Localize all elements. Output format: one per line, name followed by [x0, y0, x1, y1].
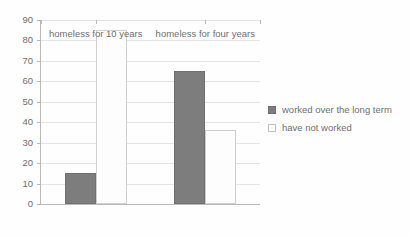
y-tick-mark [37, 102, 41, 103]
bar [205, 130, 236, 204]
legend-swatch-icon [268, 106, 276, 114]
y-tick-label: 10 [0, 179, 33, 189]
x-category-label: homeless for 10 years [49, 29, 142, 39]
y-tick-mark [37, 81, 41, 82]
y-tick-label: 80 [0, 36, 33, 46]
y-tick-label: 20 [0, 158, 33, 168]
y-tick-mark [37, 163, 41, 164]
y-tick-label: 90 [0, 15, 33, 25]
y-tick-label: 0 [0, 199, 33, 209]
legend-item: worked over the long term [268, 104, 406, 115]
gridline [41, 61, 260, 62]
plot-area: homeless for 10 yearshomeless for four y… [40, 20, 260, 205]
y-tick-label: 60 [0, 77, 33, 87]
y-tick-mark [37, 184, 41, 185]
y-tick-label: 50 [0, 97, 33, 107]
legend-swatch-icon [268, 124, 276, 132]
bar-chart: homeless for 10 yearshomeless for four y… [0, 0, 410, 236]
gridline [41, 40, 260, 41]
x-tick-mark [205, 20, 206, 24]
x-tick-mark [96, 20, 97, 24]
x-tick-mark [260, 20, 261, 24]
bar [174, 71, 205, 204]
legend-item: have not worked [268, 122, 406, 133]
x-category-label: homeless for four years [156, 29, 255, 39]
legend-label: worked over the long term [282, 105, 392, 115]
gridline [41, 102, 260, 103]
bar [96, 30, 127, 204]
gridline [41, 81, 260, 82]
legend-label: have not worked [282, 123, 352, 133]
y-tick-mark [37, 204, 41, 205]
y-tick-label: 40 [0, 117, 33, 127]
y-tick-mark [37, 61, 41, 62]
y-tick-label: 70 [0, 56, 33, 66]
y-tick-mark [37, 122, 41, 123]
y-tick-mark [37, 40, 41, 41]
gridline [41, 20, 260, 21]
chart-legend: worked over the long termhave not worked [268, 104, 406, 140]
x-tick-mark [41, 20, 42, 24]
bar [65, 173, 96, 204]
y-tick-mark [37, 143, 41, 144]
gridline [41, 122, 260, 123]
y-tick-label: 30 [0, 138, 33, 148]
